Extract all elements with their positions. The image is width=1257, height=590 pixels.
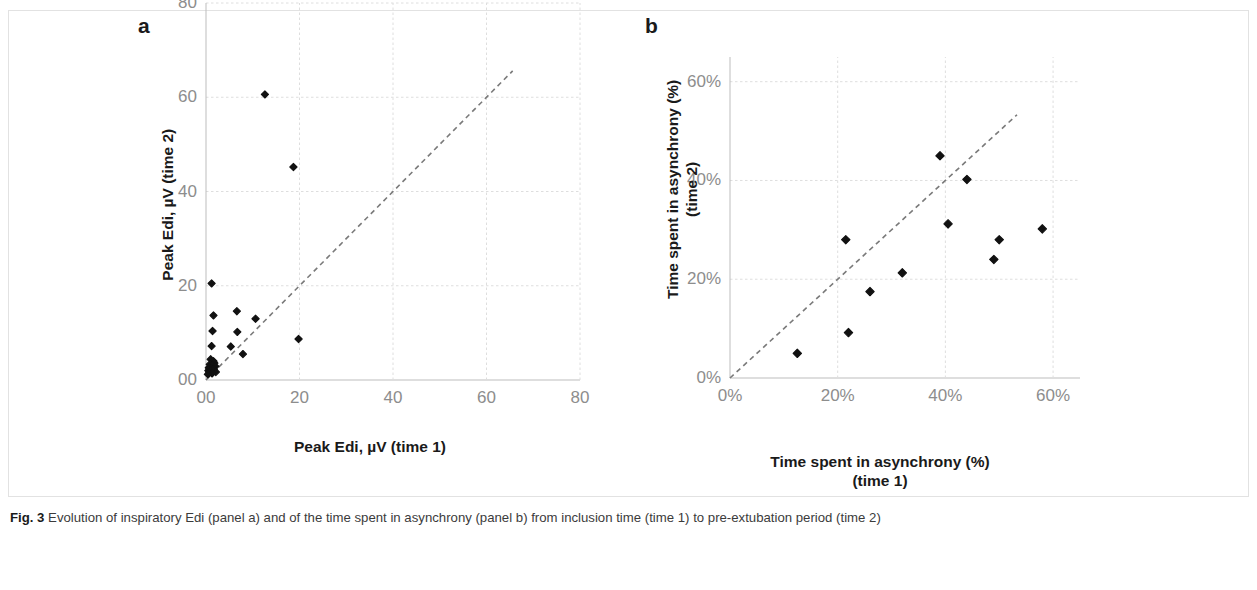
- data-point-marker: [208, 342, 215, 349]
- identity-line: [730, 115, 1017, 378]
- figure-caption-text: Evolution of inspiratory Edi (panel a) a…: [48, 510, 881, 525]
- panel-b-xtick-3: 60%: [1036, 386, 1070, 406]
- data-point-marker: [995, 236, 1003, 244]
- panel-b-xtick-0: 0%: [718, 386, 743, 406]
- data-point-marker: [252, 315, 259, 322]
- data-point-marker: [290, 163, 297, 170]
- panel-b-xtick-1: 20%: [821, 386, 855, 406]
- identity-line: [206, 71, 513, 380]
- panel-a-x-axis-label: Peak Edi, µV (time 1): [170, 437, 570, 456]
- data-point-marker: [227, 343, 234, 350]
- panel-a-xtick-3: 60: [477, 388, 496, 408]
- data-point-marker: [210, 312, 217, 319]
- data-point-marker: [844, 328, 852, 336]
- panel-a-ytick-2: 40: [178, 182, 197, 202]
- panel-b: b 0% 20% 40% 60% 0% 20% 40% 60% Time spe…: [625, 0, 1125, 487]
- panel-b-x-axis-label: Time spent in asynchrony (%) (time 1): [680, 452, 1080, 491]
- data-point-marker: [793, 349, 801, 357]
- panel-b-y-axis-label: Time spent in asynchrony (%) (time 2): [663, 64, 702, 314]
- panel-a: a 00 20 40 60 80 00 20 40 60 80 Peak Edi…: [110, 0, 610, 487]
- data-point-marker: [234, 328, 241, 335]
- data-point-marker: [295, 335, 302, 342]
- data-point-marker: [866, 287, 874, 295]
- figure-number: Fig. 3: [10, 510, 44, 525]
- panel-a-xtick-2: 40: [384, 388, 403, 408]
- panel-a-ytick-3: 60: [178, 87, 197, 107]
- data-point-marker: [936, 152, 944, 160]
- panel-a-xtick-1: 20: [290, 388, 309, 408]
- panel-b-ytick-0: 0%: [696, 368, 721, 388]
- figure-caption: Fig. 3 Evolution of inspiratory Edi (pan…: [10, 508, 1240, 528]
- panel-a-ytick-1: 20: [178, 276, 197, 296]
- data-point-marker: [842, 236, 850, 244]
- data-point-marker: [898, 269, 906, 277]
- data-point-marker: [239, 350, 246, 357]
- panel-b-xtick-2: 40%: [928, 386, 962, 406]
- panel-a-ytick-4: 80: [178, 0, 197, 13]
- data-point-marker: [209, 327, 216, 334]
- panel-a-plot: [110, 0, 610, 430]
- data-point-marker: [990, 255, 998, 263]
- panel-a-ytick-0: 00: [178, 370, 197, 390]
- figure-root: a 00 20 40 60 80 00 20 40 60 80 Peak Edi…: [0, 0, 1257, 590]
- data-point-marker: [233, 308, 240, 315]
- panel-a-xtick-0: 00: [197, 388, 216, 408]
- data-point-marker: [963, 175, 971, 183]
- data-point-marker: [208, 280, 215, 287]
- panel-a-y-axis-label: Peak Edi, µV (time 2): [158, 90, 177, 320]
- panel-a-xtick-4: 80: [571, 388, 590, 408]
- data-point-marker: [1038, 225, 1046, 233]
